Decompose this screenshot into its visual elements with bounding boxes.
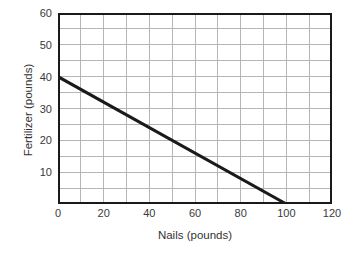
x-tick-label: 100 — [277, 208, 295, 219]
data-series-line — [58, 13, 332, 204]
y-tick-label: 20 — [40, 135, 52, 146]
chart-container: 020406080100120 102030405060 Nails (poun… — [0, 0, 363, 255]
plot-area — [58, 13, 332, 204]
y-tick-label: 40 — [40, 71, 52, 82]
y-axis-title: Fertilizer (pounds) — [22, 20, 34, 200]
x-tick-label: 0 — [55, 208, 61, 219]
y-tick-label: 50 — [40, 39, 52, 50]
y-tick-label: 30 — [40, 103, 52, 114]
y-tick-label: 10 — [40, 167, 52, 178]
y-tick-label: 60 — [40, 8, 52, 19]
x-axis-title: Nails (pounds) — [58, 229, 332, 241]
x-tick-label: 60 — [189, 208, 201, 219]
x-tick-label: 20 — [98, 208, 110, 219]
x-tick-label: 80 — [235, 208, 247, 219]
x-tick-label: 40 — [143, 208, 155, 219]
x-tick-label: 120 — [323, 208, 341, 219]
